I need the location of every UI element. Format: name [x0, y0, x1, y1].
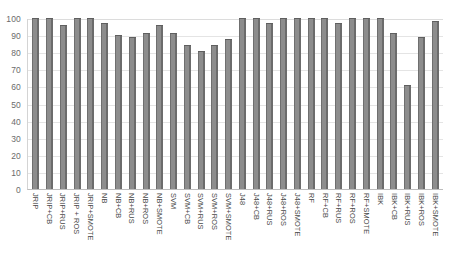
x-axis-tick: NB — [97, 192, 111, 266]
bar — [156, 25, 163, 189]
bar-slot — [387, 19, 401, 189]
bar-slot — [84, 19, 98, 189]
x-axis-tick: J48+RUS — [263, 192, 277, 266]
y-axis: 0102030405060708090100 — [0, 0, 25, 266]
bar — [115, 35, 122, 189]
bar-slot — [57, 19, 71, 189]
bar — [60, 25, 67, 189]
x-axis-tick: IBK+CB — [387, 192, 401, 266]
x-axis-tick-label: IBK — [375, 193, 384, 205]
bar — [404, 85, 411, 189]
bar — [335, 23, 342, 189]
bar-series — [28, 19, 443, 189]
bar-slot — [112, 19, 126, 189]
x-axis-tick: JRIP+CB — [42, 192, 56, 266]
x-axis-tick-label: J48+ROS — [279, 193, 288, 226]
bar-slot — [428, 19, 442, 189]
x-axis-tick-label: RF+SMOTE — [362, 193, 371, 234]
x-axis: JRIPJRIP+CBJRIP+RUSJRIP + ROSJRIP+SMOTEN… — [27, 192, 443, 266]
bar-slot — [291, 19, 305, 189]
x-axis-tick: JRIP — [28, 192, 42, 266]
x-axis-tick: SVM+CB — [180, 192, 194, 266]
x-axis-tick-label: JRIP+SMOTE — [86, 193, 95, 241]
bar-slot — [194, 19, 208, 189]
bar-slot — [98, 19, 112, 189]
y-axis-tick-label: 20 — [11, 151, 21, 161]
x-axis-tick-label: SVM+RUS — [196, 193, 205, 230]
x-axis-tick: NB+CB — [111, 192, 125, 266]
bar-slot — [401, 19, 415, 189]
x-axis-tick-label: RF+RUS — [334, 193, 343, 223]
bar — [280, 18, 287, 189]
x-axis-tick-label: JRIP — [30, 193, 39, 209]
bar — [321, 18, 328, 189]
bar-slot — [318, 19, 332, 189]
plot-area — [27, 19, 443, 190]
x-axis-tick: SVM+ROS — [207, 192, 221, 266]
bar — [253, 18, 260, 189]
bar — [225, 39, 232, 189]
bar-slot — [359, 19, 373, 189]
bar — [74, 18, 81, 189]
bar-slot — [29, 19, 43, 189]
bar-slot — [304, 19, 318, 189]
x-axis-tick: JRIP + ROS — [69, 192, 83, 266]
x-axis-tick-label: NB+SMOTE — [155, 193, 164, 235]
x-axis-tick: IBK+RUS — [401, 192, 415, 266]
x-axis-tick: RF+ROS — [345, 192, 359, 266]
x-axis-tick-label: NB+ROS — [141, 193, 150, 224]
x-axis-tick-label: J48 — [237, 193, 246, 205]
bar — [143, 33, 150, 189]
bar-slot — [263, 19, 277, 189]
x-axis-tick-label: J48+SMOTE — [293, 193, 302, 236]
x-axis-tick: RF+CB — [318, 192, 332, 266]
y-axis-tick-label: 50 — [11, 100, 21, 110]
bar-slot — [414, 19, 428, 189]
y-axis-tick-label: 80 — [11, 48, 21, 58]
bar-slot — [167, 19, 181, 189]
x-axis-tick-label: SVM+ROS — [210, 193, 219, 230]
y-axis-tick-label: 10 — [11, 168, 21, 178]
x-axis-tick-label: NB — [99, 193, 108, 203]
x-axis-tick-label: SVM+CB — [182, 193, 191, 224]
bar — [211, 45, 218, 189]
bar — [390, 33, 397, 189]
bar — [184, 45, 191, 189]
bar — [432, 21, 439, 189]
x-axis-tick-label: RF+CB — [320, 193, 329, 218]
y-axis-tick-label: 100 — [6, 14, 21, 24]
x-axis-tick-label: IBK+CB — [389, 193, 398, 220]
x-axis-tick-label: RF — [306, 193, 315, 203]
y-axis-tick-label: 30 — [11, 134, 21, 144]
y-axis-tick-label: 60 — [11, 82, 21, 92]
x-axis-tick: NB+ROS — [138, 192, 152, 266]
bar — [239, 18, 246, 189]
bar — [101, 23, 108, 189]
bar-slot — [235, 19, 249, 189]
x-axis-tick: RF+SMOTE — [359, 192, 373, 266]
x-axis-tick-label: JRIP + ROS — [72, 193, 81, 234]
x-axis-tick: RF — [304, 192, 318, 266]
x-axis-tick: J48+SMOTE — [290, 192, 304, 266]
bar-slot — [249, 19, 263, 189]
y-axis-tick-label: 40 — [11, 117, 21, 127]
bar-slot — [373, 19, 387, 189]
x-axis-tick-label: J48+RUS — [265, 193, 274, 226]
bar-slot — [277, 19, 291, 189]
bar-slot — [125, 19, 139, 189]
x-axis-tick: NB+RUS — [125, 192, 139, 266]
x-axis-tick: IBK+SMOTE — [428, 192, 442, 266]
bar-slot — [70, 19, 84, 189]
y-axis-tick-label: 0 — [16, 185, 21, 195]
bar-slot — [222, 19, 236, 189]
y-axis-tick-label: 70 — [11, 65, 21, 75]
bar-slot — [43, 19, 57, 189]
x-axis-tick: NB+SMOTE — [152, 192, 166, 266]
x-axis-tick: SVM+RUS — [194, 192, 208, 266]
bar-chart: 0102030405060708090100 JRIPJRIP+CBJRIP+R… — [0, 0, 450, 266]
x-axis-tick: SVM+SMOTE — [221, 192, 235, 266]
bar — [170, 33, 177, 189]
x-axis-tick-label: SVM — [168, 193, 177, 209]
x-axis-tick-label: J48+CB — [251, 193, 260, 220]
bar — [87, 18, 94, 189]
